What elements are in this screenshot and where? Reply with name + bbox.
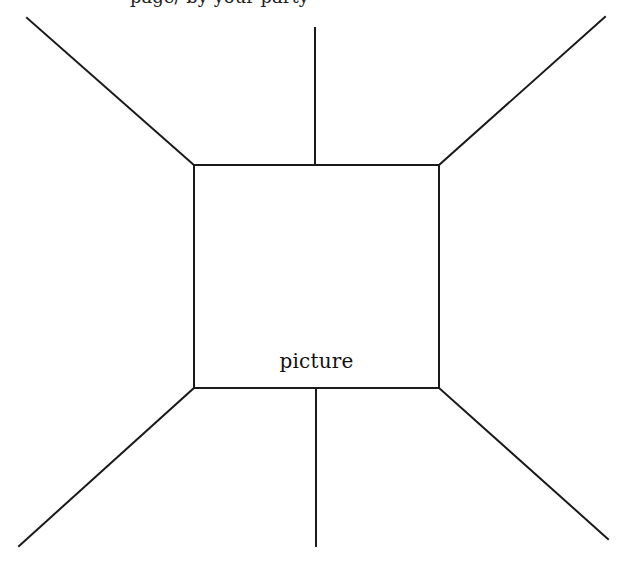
- top-right-diagonal-line: [439, 17, 605, 165]
- bottom-right-diagonal-line: [439, 388, 608, 539]
- picture-label: picture: [194, 349, 439, 373]
- bottom-left-diagonal-line: [19, 388, 194, 546]
- perspective-diagram: [0, 0, 630, 567]
- top-left-diagonal-line: [27, 18, 194, 165]
